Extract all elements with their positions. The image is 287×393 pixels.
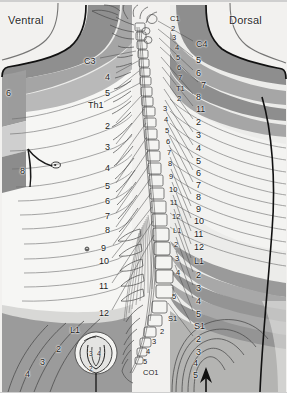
anatomy-illustration — [0, 1, 287, 393]
dermatome-diagram: Ventral Dorsal C3456Th1234856789101112L1… — [0, 0, 287, 393]
